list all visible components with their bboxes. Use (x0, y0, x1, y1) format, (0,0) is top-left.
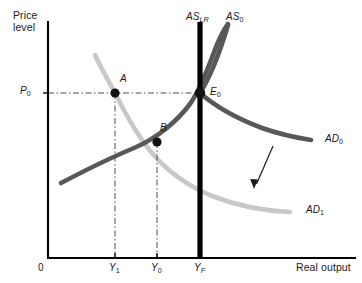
curve-label-ad1-sub: 1 (320, 208, 324, 217)
y-tick-label-p0-base: P (20, 85, 27, 96)
y-tick-label-p0: P0 (20, 85, 31, 96)
y-tick-label-p0-sub: 0 (27, 89, 31, 98)
point-label-a: A (120, 73, 127, 84)
point-a-marker (110, 88, 119, 97)
curve-label-ad0: AD0 (325, 133, 343, 144)
point-label-e0: E0 (210, 86, 221, 97)
curve-as0 (61, 24, 228, 183)
curve-label-as0: AS0 (226, 11, 244, 22)
x-tick-label-y0-sub: 0 (158, 266, 162, 275)
ad-as-diagram: Price level Real output 0 P0 ASLR AS0 AD… (0, 0, 362, 283)
curve-label-as-lr-base: AS (186, 11, 200, 22)
x-tick-label-yf-sub: F (201, 266, 205, 275)
y-axis-title: Price level (13, 10, 37, 34)
point-label-b: B (160, 122, 167, 133)
y-axis-title-line2: level (13, 21, 35, 33)
x-tick-label-yf-base: Y (194, 262, 201, 273)
curve-label-ad1: AD1 (306, 204, 324, 215)
curve-label-as-lr-sub: LR (200, 15, 209, 24)
point-b-marker (152, 137, 161, 146)
curve-label-ad1-base: AD (306, 204, 320, 215)
diagram-canvas (0, 0, 362, 283)
curve-label-as0-base: AS (226, 11, 240, 22)
x-tick-label-y0: Y0 (151, 262, 162, 273)
curve-label-ad0-sub: 0 (339, 137, 343, 146)
x-tick-label-y1-sub: 1 (116, 266, 120, 275)
x-axis-title: Real output (296, 262, 351, 274)
point-e0-marker (195, 88, 205, 98)
curve-label-as0-sub: 0 (240, 15, 244, 24)
point-label-e0-sub: 0 (217, 90, 221, 99)
x-tick-label-y1: Y1 (109, 262, 120, 273)
x-tick-label-y0-base: Y (151, 262, 158, 273)
x-tick-label-y1-base: Y (109, 262, 116, 273)
origin-label: 0 (38, 262, 44, 273)
curve-label-ad0-base: AD (325, 133, 339, 144)
x-tick-label-yf: YF (194, 262, 205, 273)
y-axis-title-line1: Price (13, 9, 37, 21)
point-label-e0-base: E (210, 86, 217, 97)
shift-arrow-icon (250, 146, 273, 189)
curve-label-as-lr: ASLR (186, 11, 209, 22)
